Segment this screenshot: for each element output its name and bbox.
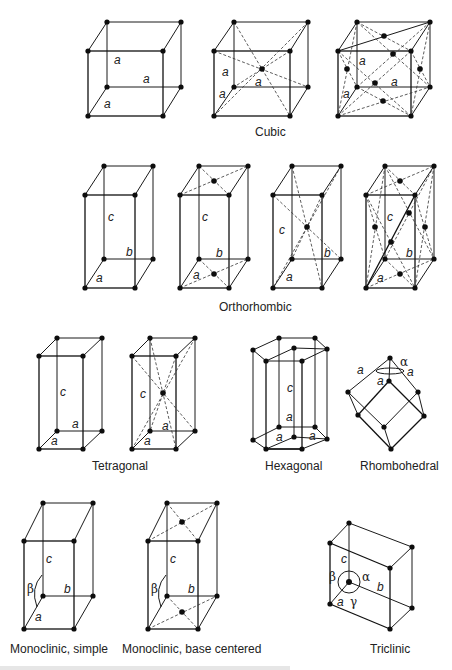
param-a-label: a bbox=[162, 419, 169, 433]
param-b-label: b bbox=[188, 582, 195, 596]
monoclinic-simple-cell: c β b a bbox=[21, 500, 95, 631]
param-a-label: a bbox=[222, 65, 229, 79]
param-a-label: a bbox=[276, 430, 283, 444]
param-gamma-label: γ bbox=[350, 595, 357, 609]
orthorhombic-base-centered-cell: c b a bbox=[177, 163, 250, 290]
param-a-label: a bbox=[359, 54, 366, 68]
param-a-label: a bbox=[104, 97, 111, 111]
param-beta-label: β bbox=[329, 570, 336, 584]
param-b-label: b bbox=[377, 580, 384, 594]
param-a-label: a bbox=[407, 365, 414, 379]
label-monoclinic-base-centered: Monoclinic, base centered bbox=[122, 642, 261, 656]
label-hexagonal: Hexagonal bbox=[265, 459, 322, 473]
param-a-label: a bbox=[143, 72, 150, 86]
param-a-label: a bbox=[72, 417, 79, 431]
param-b-label: b bbox=[216, 246, 223, 260]
tetragonal-body-centered-cell: c a a bbox=[129, 335, 197, 451]
param-a-label: a bbox=[286, 410, 293, 424]
param-b-label: b bbox=[406, 246, 413, 260]
orthorhombic-face-centered-cell: c b a bbox=[363, 163, 436, 290]
cubic-simple-cell: a a a bbox=[85, 19, 183, 118]
label-orthorhombic: Orthorhombic bbox=[219, 300, 292, 314]
triclinic-cell: c β α b a γ bbox=[327, 520, 414, 631]
param-a-label: a bbox=[255, 75, 262, 89]
param-c-label: c bbox=[108, 210, 114, 224]
label-triclinic: Triclinic bbox=[370, 642, 410, 656]
param-c-label: c bbox=[46, 552, 52, 566]
label-cubic: Cubic bbox=[255, 125, 286, 139]
param-c-label: c bbox=[140, 387, 146, 401]
bravais-lattices-figure: a a a a a a bbox=[0, 0, 452, 670]
param-c-label: c bbox=[170, 552, 176, 566]
param-alpha-label: α bbox=[362, 570, 370, 584]
param-c-label: c bbox=[341, 552, 347, 566]
param-a-label: a bbox=[337, 595, 344, 609]
param-a-label: a bbox=[114, 53, 121, 67]
param-c-label: c bbox=[387, 210, 393, 224]
label-rhombohedral: Rhombohedral bbox=[360, 459, 439, 473]
param-c-label: c bbox=[202, 210, 208, 224]
label-tetragonal: Tetragonal bbox=[92, 459, 148, 473]
param-beta-label: β bbox=[151, 582, 158, 596]
hexagonal-cell: c a a a bbox=[250, 335, 329, 451]
param-c-label: c bbox=[60, 385, 66, 399]
cubic-face-centered-cell: a a a bbox=[335, 19, 432, 118]
param-a-label: a bbox=[357, 363, 364, 377]
param-beta-label: β bbox=[27, 582, 34, 596]
tetragonal-simple-cell: c a a bbox=[36, 335, 104, 451]
param-a-label: a bbox=[343, 87, 350, 101]
param-a-label: a bbox=[96, 271, 103, 285]
param-a-label: a bbox=[51, 434, 58, 448]
param-a-label: a bbox=[35, 610, 42, 624]
param-a-label: a bbox=[193, 268, 200, 282]
monoclinic-base-centered-cell: c β b bbox=[145, 500, 219, 631]
param-a-label: a bbox=[286, 270, 293, 284]
param-b-label: b bbox=[64, 582, 71, 596]
param-a-label: a bbox=[377, 271, 384, 285]
orthorhombic-body-centered-cell: c b a bbox=[270, 163, 343, 290]
param-a-label: a bbox=[391, 75, 398, 89]
rhombohedral-cell: α a a a bbox=[345, 355, 426, 452]
param-a-label: a bbox=[309, 429, 316, 443]
param-b-label: b bbox=[324, 246, 331, 260]
truncated-caption bbox=[0, 666, 290, 670]
param-a-label: a bbox=[377, 374, 384, 388]
param-a-label: a bbox=[144, 434, 151, 448]
param-a-label: a bbox=[219, 87, 226, 101]
orthorhombic-simple-cell: c b a bbox=[82, 163, 155, 290]
label-monoclinic-simple: Monoclinic, simple bbox=[10, 642, 108, 656]
param-b-label: b bbox=[126, 245, 133, 259]
param-c-label: c bbox=[279, 223, 285, 237]
cubic-body-centered-cell: a a a bbox=[211, 19, 310, 118]
param-c-label: c bbox=[287, 381, 293, 395]
